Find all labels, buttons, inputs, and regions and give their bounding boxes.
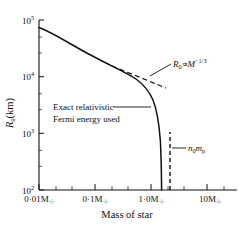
x-tick-label-3: 10M☉	[199, 194, 221, 205]
y-tick-label-1e5: 105	[22, 14, 34, 26]
x-tick-label-1: 0·1M☉	[83, 194, 108, 205]
x-tick-label-0: 0·01M☉	[24, 194, 54, 205]
series-power-law-dashed	[112, 66, 166, 88]
annotation-exact-line2: Fermi energy used	[53, 114, 120, 124]
x-tick-label-2: 1·0M☉	[139, 194, 164, 205]
y-axis-major-ticks	[39, 20, 44, 190]
x-axis-title: Mass of star	[101, 209, 153, 220]
leader-power-law	[150, 64, 171, 76]
y-tick-labels: 105 104 103 102	[22, 14, 34, 196]
annotation-leader-lines	[113, 64, 186, 148]
annotation-exact-line1: Exact relativistic	[53, 102, 114, 112]
chart-svg: 105 104 103 102 0·01M☉ 0·1M☉ 1·0M☉ 10M☉ …	[0, 0, 239, 226]
y-tick-label-1e3: 103	[22, 127, 34, 139]
figure-root: 105 104 103 102 0·01M☉ 0·1M☉ 1·0M☉ 10M☉ …	[0, 0, 239, 226]
annotation-power-law: R0∝M−1/3	[172, 57, 207, 70]
x-tick-labels: 0·01M☉ 0·1M☉ 1·0M☉ 10M☉	[24, 194, 221, 205]
y-axis-title: R0(km)	[4, 98, 16, 129]
x-axis-minor-ticks	[56, 186, 224, 190]
svg-text:R0(km): R0(km)	[4, 98, 16, 129]
annotation-exact-relativistic: Exact relativistic Fermi energy used	[53, 102, 120, 124]
x-axis-major-ticks	[39, 184, 207, 190]
annotation-n0mp: n0mp	[188, 143, 205, 154]
y-tick-label-1e4: 104	[22, 70, 34, 82]
